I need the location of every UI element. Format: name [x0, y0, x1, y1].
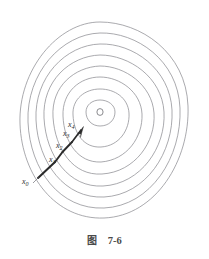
origin-marker	[97, 109, 103, 116]
contour-ring-8	[20, 22, 188, 218]
figure-container: x0 x1 x2 x3 x4 图 7-6	[0, 0, 209, 259]
point-label-x2: x2	[56, 142, 63, 150]
point-label-x3: x3	[63, 130, 70, 138]
contour-ring-1	[86, 100, 115, 126]
contour-rings	[20, 22, 188, 218]
path-segment-x1-x2	[55, 152, 63, 162]
point-label-x0-sub: 0	[26, 181, 29, 187]
point-label-x1-sub: 1	[53, 159, 56, 165]
point-label-x4-sub: 4	[72, 124, 75, 130]
contour-plot	[0, 0, 209, 259]
caption-label: 图	[87, 236, 98, 246]
point-label-x0: x0	[22, 178, 29, 186]
origin-circle	[97, 109, 103, 116]
point-label-x1: x1	[49, 156, 56, 164]
point-label-x2-sub: 2	[60, 145, 63, 151]
contour-ring-3	[63, 77, 142, 162]
point-label-x3-sub: 3	[67, 133, 70, 139]
contour-ring-2	[73, 89, 129, 147]
figure-caption: 图 7-6	[0, 231, 209, 251]
descent-path	[33, 127, 84, 184]
contour-ring-5	[44, 55, 164, 186]
path-segment-x2-x3	[63, 142, 73, 152]
caption-number: 7-6	[108, 236, 122, 247]
point-label-x4: x4	[68, 121, 75, 129]
contour-ring-7	[28, 33, 180, 208]
